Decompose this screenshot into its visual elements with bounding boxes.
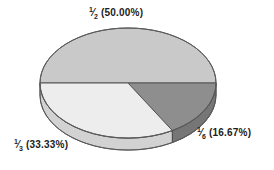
- slice-label-one-half: 1⁄2(50.00%): [89, 7, 143, 18]
- fraction-denominator: 3: [19, 145, 23, 152]
- pie-chart: 1⁄2(50.00%) 1⁄3(33.33%) 1⁄6(16.67%): [0, 0, 274, 170]
- slice-label-one-sixth: 1⁄6(16.67%): [197, 127, 251, 138]
- slice-percent-one-half: (50.00%): [101, 7, 143, 18]
- fraction-one-half: 1⁄2: [89, 7, 98, 18]
- slice-label-one-third: 1⁄3(33.33%): [14, 139, 68, 150]
- slice-percent-one-third: (33.33%): [26, 139, 68, 150]
- slice-percent-one-sixth: (16.67%): [209, 127, 251, 138]
- fraction-denominator: 6: [202, 133, 206, 140]
- fraction-denominator: 2: [94, 13, 98, 20]
- fraction-one-sixth: 1⁄6: [197, 127, 206, 138]
- fraction-one-third: 1⁄3: [14, 139, 23, 150]
- slice-top-one-half: [40, 28, 216, 83]
